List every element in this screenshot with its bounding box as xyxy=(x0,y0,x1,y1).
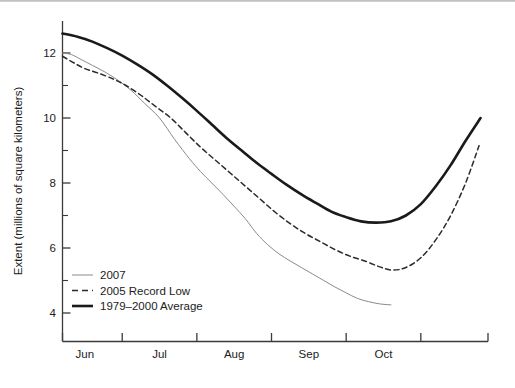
x-tick-label: Jul xyxy=(152,348,167,360)
x-tick-label: Sep xyxy=(299,348,319,360)
y-tick-label: 4 xyxy=(50,307,57,319)
legend-label: 2007 xyxy=(100,269,126,281)
top-divider-rule xyxy=(0,0,515,2)
line-chart: 4681012 Extent (millions of square kilom… xyxy=(0,0,515,388)
x-tick-label: Jun xyxy=(76,348,95,360)
y-tick-label: 12 xyxy=(43,47,56,59)
legend-label: 2005 Record Low xyxy=(100,285,191,297)
x-tick-label: Oct xyxy=(375,348,394,360)
chart-background xyxy=(0,0,515,388)
y-axis-title: Extent (millions of square kilometers) xyxy=(12,87,24,276)
y-tick-label: 8 xyxy=(50,177,56,189)
y-tick-label: 10 xyxy=(43,112,56,124)
x-tick-label: Aug xyxy=(224,348,244,360)
y-tick-label: 6 xyxy=(50,242,56,254)
legend-label: 1979–2000 Average xyxy=(100,300,203,312)
chart-figure: 4681012 Extent (millions of square kilom… xyxy=(0,0,515,388)
